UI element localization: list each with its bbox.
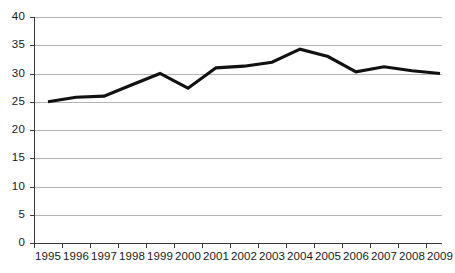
series-line-1 [48, 49, 440, 102]
y-axis-tick-label: 15 [0, 152, 25, 164]
data-series [48, 49, 440, 102]
x-axis-tick-label: 2005 [313, 251, 343, 263]
x-axis-tick-label: 2001 [201, 251, 231, 263]
x-axis-tick-label: 1995 [33, 251, 63, 263]
x-axis-tick-label: 1996 [61, 251, 91, 263]
gridlines [34, 18, 442, 216]
x-axis-tick-label: 1998 [117, 251, 147, 263]
x-axis-tick-label: 1999 [145, 251, 175, 263]
y-axis-tick-label: 35 [0, 39, 25, 51]
y-axis-tick-label: 5 [0, 209, 25, 221]
x-axis-tick-label: 2007 [369, 251, 399, 263]
x-axis-tick-label: 2006 [341, 251, 371, 263]
y-axis-tick-label: 10 [0, 181, 25, 193]
y-axis-tick-label: 25 [0, 96, 25, 108]
y-axis-tick-label: 0 [0, 237, 25, 249]
x-axis-tick-label: 2002 [229, 251, 259, 263]
y-axis-ticks [30, 18, 34, 244]
x-axis-tick-label: 2004 [285, 251, 315, 263]
y-axis-tick-label: 40 [0, 11, 25, 23]
x-axis-tick-label: 2008 [397, 251, 427, 263]
x-axis-tick-label: 2003 [257, 251, 287, 263]
x-axis-tick-label: 2009 [425, 251, 455, 263]
x-axis-tick-label: 1997 [89, 251, 119, 263]
y-axis-tick-label: 20 [0, 124, 25, 136]
y-axis-tick-label: 30 [0, 68, 25, 80]
x-axis-tick-label: 2000 [173, 251, 203, 263]
